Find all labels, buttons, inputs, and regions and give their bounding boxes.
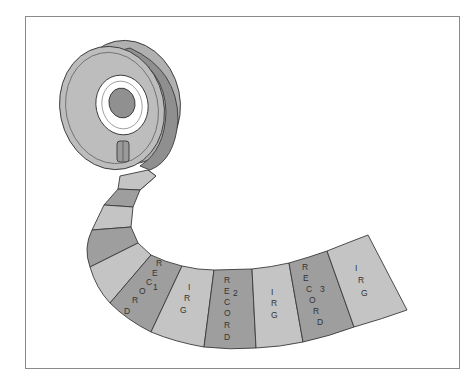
tape-segment-a bbox=[104, 189, 140, 207]
svg-text:E: E bbox=[224, 286, 230, 296]
svg-text:C: C bbox=[306, 284, 312, 294]
svg-text:2: 2 bbox=[233, 288, 238, 298]
svg-text:D: D bbox=[124, 306, 130, 316]
svg-text:O: O bbox=[224, 308, 231, 318]
svg-text:G: G bbox=[271, 310, 278, 320]
svg-text:R: R bbox=[358, 275, 364, 285]
svg-text:I: I bbox=[355, 263, 357, 273]
svg-text:D: D bbox=[224, 332, 230, 342]
tape-strip bbox=[87, 170, 407, 349]
tape-segment-b bbox=[92, 205, 133, 230]
svg-text:G: G bbox=[361, 288, 368, 298]
svg-text:R: R bbox=[224, 275, 230, 285]
svg-text:E: E bbox=[152, 268, 158, 278]
svg-text:I: I bbox=[188, 282, 190, 292]
svg-text:R: R bbox=[132, 295, 138, 305]
svg-text:I: I bbox=[271, 287, 273, 297]
svg-text:R: R bbox=[271, 298, 277, 308]
svg-text:R: R bbox=[224, 320, 230, 330]
svg-text:O: O bbox=[309, 295, 316, 305]
svg-text:O: O bbox=[139, 286, 146, 296]
tape-reel bbox=[48, 31, 192, 180]
svg-text:R: R bbox=[184, 293, 190, 303]
svg-text:R: R bbox=[156, 258, 162, 268]
svg-text:C: C bbox=[224, 297, 230, 307]
svg-text:D: D bbox=[317, 317, 323, 327]
svg-text:R: R bbox=[302, 262, 308, 272]
tape-segment-upper-2 bbox=[118, 170, 156, 190]
svg-text:R: R bbox=[313, 306, 319, 316]
svg-text:G: G bbox=[180, 305, 187, 315]
svg-text:C: C bbox=[146, 277, 152, 287]
svg-text:1: 1 bbox=[153, 282, 158, 292]
svg-text:E: E bbox=[303, 273, 309, 283]
svg-text:3: 3 bbox=[320, 284, 325, 294]
tape-reel-diagram: R E C O R D 1 I R G R E C O R D 2 I R G … bbox=[0, 0, 472, 390]
